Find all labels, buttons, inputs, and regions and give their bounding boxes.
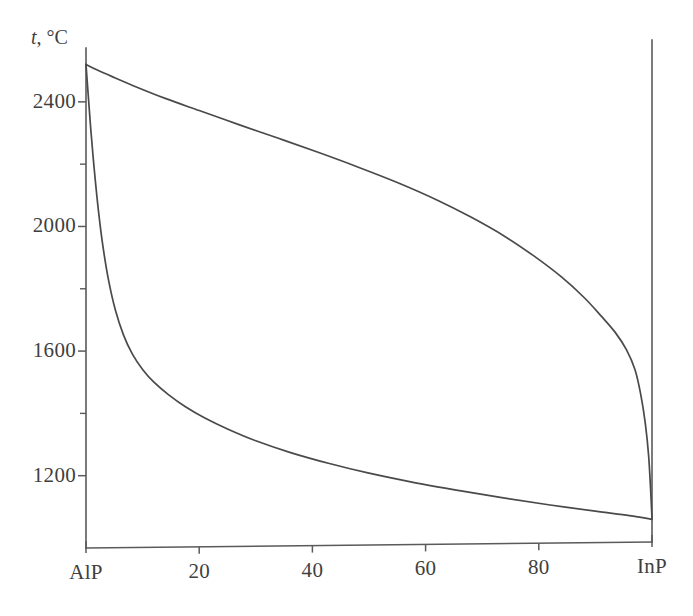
y-tick-label: 1200 [6,463,76,488]
y-tick-label: 1600 [6,338,76,363]
plot-canvas [0,0,693,616]
x-axis-line [86,542,652,548]
y-tick-label: 2000 [6,213,76,238]
x-tick-label: 60 [386,556,466,581]
liquidus-curve [86,64,652,518]
x-tick-label: 20 [159,559,239,584]
x-tick-label: InP [612,554,692,579]
x-tick-label: AlP [46,560,126,585]
y-axis-title-unit: , °C [37,26,68,48]
phase-diagram-figure: t, °C 2400200016001200 AlP20406080InP [0,0,693,616]
axes-group [86,40,652,548]
x-tick-label: 80 [499,555,579,580]
x-tick-label: 40 [272,558,352,583]
curves-group [86,64,652,519]
y-axis-title: t, °C [31,26,68,49]
y-tick-label: 2400 [6,89,76,114]
solidus-curve [86,64,652,519]
